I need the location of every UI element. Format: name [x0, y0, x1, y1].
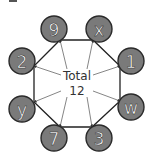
octagon-sum-diagram: Total 12 9x1w37y2: [0, 0, 156, 161]
arrow-to-bottom-right: [87, 97, 92, 127]
arrow-to-top-left: [60, 40, 67, 69]
node-label: w: [124, 98, 138, 118]
center-total-value: 12: [69, 84, 84, 98]
node-right-bottom: w: [118, 94, 144, 120]
node-label: 1: [126, 52, 137, 72]
arrow-to-right-bottom: [93, 91, 120, 101]
node-label: 9: [49, 20, 60, 40]
node-label: 2: [17, 52, 28, 72]
node-top-left: 9: [41, 16, 67, 42]
arrow-to-bottom-left: [60, 97, 67, 127]
arrow-to-top-right: [87, 40, 93, 69]
node-label: y: [17, 100, 27, 120]
arrow-to-right-top: [93, 66, 120, 75]
node-top-right: x: [86, 16, 112, 42]
node-right-top: 1: [118, 48, 144, 74]
node-left-top: 2: [9, 48, 35, 74]
node-bottom-right: 3: [86, 125, 112, 151]
corner-mark: [9, 0, 17, 2]
node-left-bottom: y: [9, 96, 35, 122]
arrow-to-left-top: [34, 66, 61, 75]
node-label: 3: [94, 129, 105, 149]
node-label: 7: [49, 129, 60, 149]
node-label: x: [94, 20, 104, 40]
node-bottom-left: 7: [41, 125, 67, 151]
center-total-label: Total: [62, 69, 91, 83]
arrow-to-left-bottom: [34, 91, 61, 102]
